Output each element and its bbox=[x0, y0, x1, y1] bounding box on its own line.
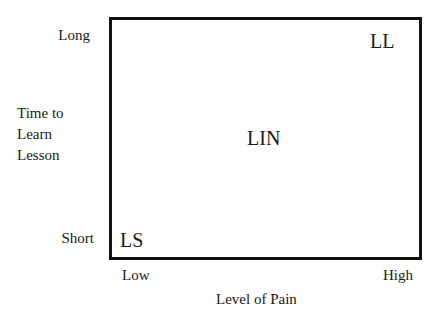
y-axis-low-label: Short bbox=[61, 230, 94, 246]
point-label-ls: LS bbox=[120, 229, 143, 251]
x-axis-high-label: High bbox=[383, 267, 413, 283]
y-axis-high-label: Long bbox=[58, 27, 90, 43]
x-axis-low-label: Low bbox=[122, 267, 150, 283]
point-label-lin: LIN bbox=[247, 127, 280, 149]
point-label-ll: LL bbox=[370, 30, 394, 52]
x-axis-title: Level of Pain bbox=[216, 291, 297, 307]
y-axis-title: Time to Learn Lesson bbox=[17, 103, 64, 166]
